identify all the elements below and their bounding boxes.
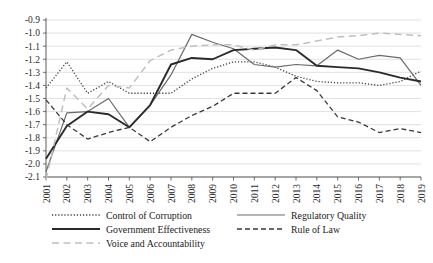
- x-tick-label: 2006: [146, 184, 156, 203]
- y-tick-label: -1.8: [25, 133, 40, 143]
- x-tick-label: 2019: [417, 184, 427, 203]
- legend-label: Regulatory Quality: [291, 210, 366, 221]
- chart-legend: Control of CorruptionRegulatory QualityG…: [52, 210, 366, 249]
- x-tick-label: 2007: [167, 184, 177, 203]
- legend-item[interactable]: Rule of Law: [237, 224, 341, 235]
- series-line-control-of-corruption: [46, 62, 421, 93]
- x-tick-label: 2009: [208, 184, 218, 203]
- x-tick-label: 2004: [104, 184, 114, 203]
- data-series: [46, 33, 421, 180]
- y-tick-label: -1.0: [25, 28, 40, 38]
- legend-label: Government Effectiveness: [106, 224, 210, 235]
- x-tick-label: 2017: [375, 184, 385, 203]
- y-tick-label: -1.5: [25, 94, 40, 104]
- legend-label: Rule of Law: [291, 224, 341, 235]
- legend-item[interactable]: Voice and Accountability: [52, 238, 205, 249]
- legend-item[interactable]: Regulatory Quality: [237, 210, 366, 221]
- y-tick-label: -1.1: [25, 42, 40, 52]
- x-tick-label: 2012: [271, 184, 281, 203]
- legend-item[interactable]: Control of Corruption: [52, 210, 192, 221]
- y-axis: -0.9-1.0-1.1-1.2-1.3-1.4-1.5-1.6-1.7-1.8…: [25, 15, 46, 182]
- x-tick-label: 2014: [312, 184, 322, 203]
- y-tick-label: -1.9: [25, 146, 40, 156]
- y-tick-label: -2.0: [25, 159, 40, 169]
- x-tick-label: 2001: [42, 184, 52, 203]
- x-tick-label: 2005: [125, 184, 135, 203]
- chart-container: -0.9-1.0-1.1-1.2-1.3-1.4-1.5-1.6-1.7-1.8…: [0, 0, 433, 263]
- line-chart: -0.9-1.0-1.1-1.2-1.3-1.4-1.5-1.6-1.7-1.8…: [0, 0, 433, 263]
- y-tick-label: -1.6: [25, 107, 40, 117]
- x-tick-label: 2003: [83, 184, 93, 203]
- x-tick-label: 2008: [187, 184, 197, 203]
- x-tick-label: 2016: [354, 184, 364, 203]
- y-tick-label: -1.4: [25, 81, 40, 91]
- y-tick-label: -1.7: [25, 120, 40, 130]
- legend-label: Voice and Accountability: [106, 238, 205, 249]
- x-tick-label: 2013: [292, 184, 302, 203]
- x-tick-label: 2010: [229, 184, 239, 203]
- x-tick-label: 2018: [396, 184, 406, 203]
- y-tick-label: -2.1: [25, 172, 40, 182]
- legend-item[interactable]: Government Effectiveness: [52, 224, 210, 235]
- legend-label: Control of Corruption: [106, 210, 192, 221]
- series-line-rule-of-law: [46, 78, 421, 142]
- y-tick-label: -1.3: [25, 68, 40, 78]
- y-tick-label: -0.9: [25, 15, 40, 25]
- x-tick-label: 2002: [62, 184, 72, 203]
- x-axis: 2001200220032004200520062007200820092010…: [42, 177, 427, 203]
- x-tick-label: 2015: [333, 184, 343, 203]
- x-tick-label: 2011: [250, 184, 260, 203]
- series-line-voice-and-accountability: [46, 33, 421, 180]
- gridlines: [46, 20, 421, 177]
- y-tick-label: -1.2: [25, 55, 40, 65]
